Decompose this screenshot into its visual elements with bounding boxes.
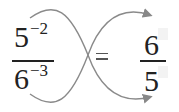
equals-sign xyxy=(96,53,108,60)
highlight-num xyxy=(158,28,168,40)
numerator-exponent: −2 xyxy=(30,19,48,38)
right-numerator: 6 xyxy=(144,30,159,60)
numerator-base: 5 xyxy=(14,20,29,53)
left-numerator: 5−2 xyxy=(14,22,48,57)
right-fraction-bar xyxy=(140,60,166,62)
right-denominator: 5 xyxy=(144,66,159,96)
left-denominator: 6−3 xyxy=(14,64,48,99)
denominator-exponent: −3 xyxy=(30,61,48,80)
highlight-den xyxy=(158,66,168,78)
denominator-base: 6 xyxy=(14,62,29,95)
